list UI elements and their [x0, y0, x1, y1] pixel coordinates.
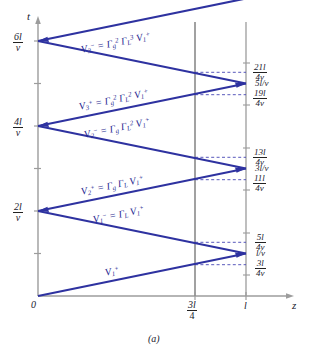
rt-11l-den: 4v: [253, 184, 266, 193]
rt-3l-den: 4v: [255, 269, 266, 278]
x-tick-label-l: l: [244, 300, 247, 311]
right-tick-label-3l-4v: 3l 4v: [255, 259, 266, 278]
origin-label: 0: [31, 299, 36, 310]
y-tick-2l-den: v: [13, 213, 23, 223]
wave-trace-group: [38, 0, 246, 296]
x-axis-name: z: [292, 299, 296, 311]
y-tick-label-4l-v: 4l v: [13, 117, 23, 138]
segment-V2minus: [38, 126, 246, 169]
y-axis-name: t: [27, 10, 30, 22]
y-tick-label-2l-v: 2l v: [13, 202, 23, 223]
x-axis-arrow: [286, 293, 294, 299]
arrow-left-1: [38, 207, 49, 212]
right-tick-label-l-v: l/v: [256, 248, 265, 258]
x-tick-3l4-den: 4: [187, 311, 197, 321]
y-tick-6l-den: v: [13, 43, 23, 53]
y-tick-4l-den: v: [13, 128, 23, 138]
x-tick-label-3l-4: 3l 4: [187, 300, 197, 321]
y-axis-arrow: [35, 16, 41, 24]
arrow-right-3: [235, 83, 246, 88]
arrow-right-2: [235, 168, 246, 173]
arrow-left-3: [38, 37, 49, 42]
y-tick-label-6l-v: 6l v: [13, 32, 23, 53]
rt-19l-den: 4v: [253, 99, 267, 108]
arrow-right-1: [235, 253, 246, 258]
segment-V1minus: [38, 211, 246, 254]
right-tick-label-3l-v: 3l/v: [255, 163, 269, 173]
segment-V1plus: [38, 254, 246, 297]
right-tick-label-19l-4v: 19l 4v: [253, 89, 267, 108]
figure-caption: (a): [148, 333, 160, 344]
right-tick-label-11l-4v: 11l 4v: [253, 174, 266, 193]
segment-V3minus: [38, 41, 246, 84]
arrow-left-2: [38, 122, 49, 127]
right-tick-label-5l-v: 5l/v: [255, 78, 269, 88]
